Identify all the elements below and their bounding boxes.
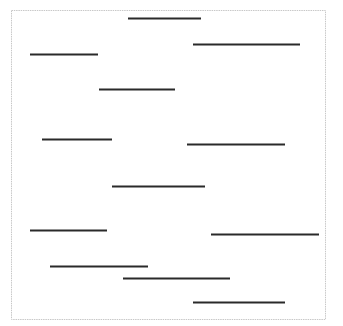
diagram-canvas — [0, 0, 343, 326]
line-segments — [30, 19, 319, 303]
diagram-frame — [12, 11, 326, 320]
